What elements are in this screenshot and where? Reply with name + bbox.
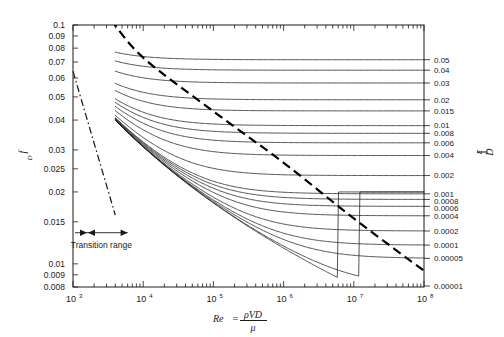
y-tick-label: 0.09 bbox=[48, 31, 65, 41]
y-tick-label: 0.08 bbox=[48, 43, 65, 53]
x-tick-label: 10 bbox=[417, 294, 427, 304]
transition-range-label: Transition range bbox=[71, 240, 132, 250]
x-tick-label: 10 bbox=[136, 294, 146, 304]
roughness-label-0.006: 0.006 bbox=[434, 139, 455, 148]
moody-diagram-svg: 103104105106107108 0.10.090.080.070.060.… bbox=[0, 0, 504, 337]
y-tick-label: 0.009 bbox=[44, 270, 66, 280]
moody-chart-root: 103104105106107108 0.10.090.080.070.060.… bbox=[0, 0, 504, 337]
y-tick-label: 0.06 bbox=[48, 73, 65, 83]
y-tick-label: 0.03 bbox=[48, 145, 65, 155]
y-tick-label: 0.07 bbox=[48, 57, 65, 67]
roughness-label-0.008: 0.008 bbox=[434, 129, 455, 138]
roughness-label-0.03: 0.03 bbox=[434, 79, 450, 88]
y-tick-label: 0.1 bbox=[53, 20, 65, 30]
roughness-label-0.00001: 0.00001 bbox=[434, 282, 463, 291]
roughness-label-0.02: 0.02 bbox=[434, 96, 450, 105]
y-axis-title-sub: D bbox=[26, 155, 34, 161]
right-axis-title-d: D bbox=[484, 148, 495, 157]
y-tick-label: 0.015 bbox=[44, 217, 66, 227]
roughness-label-0.05: 0.05 bbox=[434, 56, 450, 65]
x-axis-title-equals: = bbox=[232, 313, 239, 324]
y-tick-label: 0.04 bbox=[48, 115, 65, 125]
roughness-label-0.04: 0.04 bbox=[434, 66, 450, 75]
chart-annotations: Transition range bbox=[71, 230, 132, 250]
x-tick-label: 10 bbox=[347, 294, 357, 304]
roughness-label-0.002: 0.002 bbox=[434, 171, 455, 180]
y-tick-label: 0.008 bbox=[44, 282, 66, 292]
x-tick-label: 10 bbox=[277, 294, 287, 304]
y-tick-label: 0.05 bbox=[48, 92, 65, 102]
roughness-label-0.0004: 0.0004 bbox=[434, 212, 459, 221]
x-axis-title-numerator: ρVD bbox=[243, 309, 263, 320]
roughness-label-0.00005: 0.00005 bbox=[434, 254, 463, 263]
y-tick-label: 0.02 bbox=[48, 187, 65, 197]
x-axis-title-re: Re bbox=[212, 313, 224, 324]
x-tick-label: 10 bbox=[206, 294, 216, 304]
y-tick-label: 0.025 bbox=[44, 164, 66, 174]
roughness-label-0.0001: 0.0001 bbox=[434, 241, 459, 250]
roughness-label-0.0002: 0.0002 bbox=[434, 227, 459, 236]
x-tick-label: 10 bbox=[66, 294, 76, 304]
roughness-label-0.015: 0.015 bbox=[434, 107, 455, 116]
y-tick-label: 0.01 bbox=[48, 259, 65, 269]
roughness-label-0.004: 0.004 bbox=[434, 151, 455, 160]
x-axis-title-denominator: μ bbox=[249, 322, 255, 333]
